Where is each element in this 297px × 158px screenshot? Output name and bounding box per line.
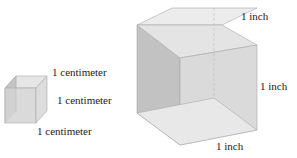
small-cube-bottom-label: 1 centimeter bbox=[37, 125, 92, 137]
small-cube bbox=[5, 76, 47, 123]
large-cube-right-label: 1 inch bbox=[260, 80, 287, 92]
large-cube bbox=[137, 8, 257, 145]
large-cube-top-label: 1 inch bbox=[241, 10, 268, 22]
large-cube-bottom-label: 1 inch bbox=[216, 140, 243, 152]
small-cube-top-label: 1 centimeter bbox=[52, 66, 107, 78]
small-cube-right-label: 1 centimeter bbox=[57, 94, 112, 106]
